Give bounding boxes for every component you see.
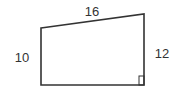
trapezoid-shape (41, 14, 144, 85)
trapezoid-diagram: 16 10 12 (0, 0, 175, 90)
top-side-label: 16 (85, 4, 99, 19)
right-side-label: 12 (155, 46, 169, 61)
left-side-label: 10 (15, 50, 29, 65)
